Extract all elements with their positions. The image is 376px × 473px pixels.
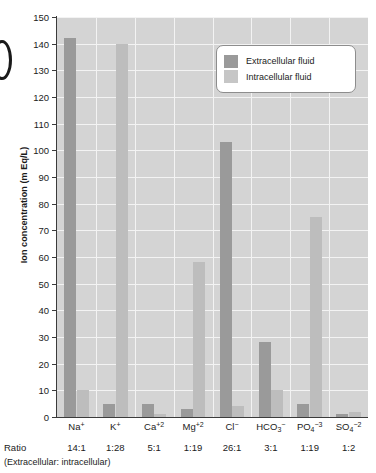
y-axis-tick-label: 30 (38, 332, 49, 343)
y-axis-tick-label: 80 (38, 198, 49, 209)
legend-swatch-intracellular (224, 70, 238, 83)
ratio-values-row: 14:11:285:11:1926:13:11:191:2 (57, 442, 368, 456)
bar-extracellular-Ca+2 (142, 404, 154, 417)
y-axis-tick-label: 140 (33, 38, 49, 49)
ratio-value-Cl-: 26:1 (223, 442, 242, 453)
ratio-note: (Extracellular: intracellular) (4, 457, 111, 467)
gridline-vertical (135, 17, 136, 417)
x-axis-line (56, 417, 368, 418)
ratio-value-Ca+2: 5:1 (148, 442, 161, 453)
x-axis-label-Mg+2: Mg+2 (182, 421, 203, 432)
bar-extracellular-Cl- (220, 142, 232, 417)
y-axis-tick-label: 130 (33, 65, 49, 76)
legend-swatch-extracellular (224, 55, 238, 68)
y-axis-tick-label: 90 (38, 172, 49, 183)
bar-intracellular-Cl- (232, 406, 244, 417)
y-axis-tick-label: 120 (33, 92, 49, 103)
y-axis-tick-label: 110 (34, 118, 49, 129)
bar-intracellular-Mg+2 (193, 262, 205, 417)
figure-ion-concentration-chart: Ion concentration (m Eq/L) 0102030405060… (0, 0, 376, 473)
y-axis-tick-label: 60 (38, 252, 49, 263)
x-axis-label-Cl-: Cl− (225, 421, 238, 432)
bar-extracellular-Na+ (64, 38, 76, 417)
bar-intracellular-PO4-3 (310, 217, 322, 417)
x-axis-label-K+: K+ (110, 421, 120, 432)
y-axis-tick-label: 50 (38, 278, 49, 289)
bar-extracellular-HCO3- (259, 342, 271, 417)
legend-label-extracellular: Extracellular fluid (246, 56, 315, 66)
x-axis-category-labels: Na+K+Ca+2Mg+2Cl−HCO3−PO4−3SO4−2 (57, 421, 368, 439)
chart-legend: Extracellular fluid Intracellular fluid (216, 45, 356, 93)
legend-item-extracellular: Extracellular fluid (224, 55, 348, 68)
bar-extracellular-Mg+2 (181, 409, 193, 417)
gridline-vertical (96, 17, 97, 417)
y-axis-tick-label: 20 (38, 358, 49, 369)
bar-extracellular-PO4-3 (297, 404, 309, 417)
ratio-value-Mg+2: 1:19 (184, 442, 203, 453)
x-axis-label-PO4-3: PO4−3 (297, 421, 323, 433)
x-axis-label-SO4-2: SO4−2 (336, 421, 362, 433)
ratio-value-PO4-3: 1:19 (300, 442, 319, 453)
bar-intracellular-K+ (116, 44, 128, 417)
bar-intracellular-Na+ (77, 390, 89, 417)
y-axis-tick-label: 150 (33, 12, 49, 23)
y-axis-title: Ion concentration (m Eq/L) (19, 95, 29, 315)
x-axis-label-Na+: Na+ (68, 421, 84, 432)
ratio-row-label: Ratio (4, 442, 26, 453)
y-axis-tick-label: 40 (38, 305, 49, 316)
y-axis-line (56, 16, 57, 418)
x-axis-label-HCO3-: HCO3− (256, 421, 285, 433)
bar-intracellular-HCO3- (271, 390, 283, 417)
y-axis-tick-label: 100 (33, 145, 49, 156)
legend-item-intracellular: Intracellular fluid (224, 70, 348, 83)
gridline-vertical (174, 17, 175, 417)
y-axis-tick-label: 10 (38, 385, 49, 396)
ratio-value-Na+: 14:1 (67, 442, 86, 453)
y-axis-tick-label: 0 (44, 412, 49, 423)
gridline-vertical (213, 17, 214, 417)
ratio-value-SO4-2: 1:2 (342, 442, 355, 453)
ratio-value-HCO3-: 3:1 (264, 442, 277, 453)
y-axis-tick-label: 70 (38, 225, 49, 236)
x-axis-label-Ca+2: Ca+2 (144, 421, 164, 432)
figure-letter-badge (0, 40, 12, 80)
legend-label-intracellular: Intracellular fluid (246, 72, 312, 82)
ratio-value-K+: 1:28 (106, 442, 125, 453)
bar-extracellular-K+ (103, 404, 115, 417)
